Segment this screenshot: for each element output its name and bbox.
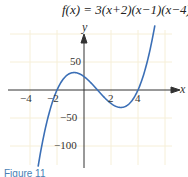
figure-caption: Figure 11 bbox=[4, 168, 46, 177]
y-tick-label: 50 bbox=[70, 55, 81, 67]
grid-lines bbox=[10, 30, 172, 165]
chart-plot bbox=[0, 0, 188, 177]
y-axis-label: y bbox=[82, 20, 87, 35]
chart-title: f(x) = 3(x+2)(x−1)(x−4) bbox=[62, 2, 188, 18]
x-tick-label: 4 bbox=[135, 92, 141, 104]
x-tick-label: −4 bbox=[20, 92, 32, 104]
axes bbox=[8, 34, 180, 168]
y-tick-label: −100 bbox=[54, 139, 77, 151]
y-tick-label: −50 bbox=[60, 111, 77, 123]
x-tick-label: 2 bbox=[108, 92, 114, 104]
x-axis-label: x bbox=[180, 82, 185, 97]
x-tick-label: −2 bbox=[47, 92, 59, 104]
